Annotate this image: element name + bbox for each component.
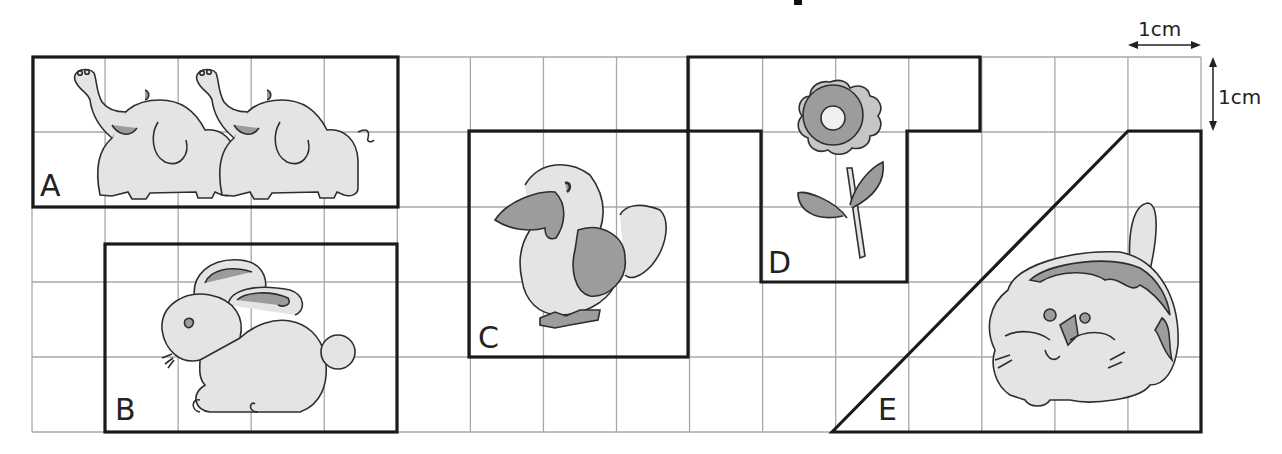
tiger-cub-illustration <box>989 203 1178 406</box>
scale-indicator-horizontal: 1cm <box>1128 17 1201 49</box>
scale-label-horizontal: 1cm <box>1138 17 1181 41</box>
area-grid-diagram: 1cm 1cm A <box>0 0 1282 454</box>
bird-illustration <box>495 165 666 328</box>
shape-c: C <box>478 165 666 355</box>
rabbit-illustration <box>162 260 355 412</box>
shape-label-b: B <box>115 392 136 427</box>
shape-e: E <box>878 203 1178 427</box>
shape-label-e: E <box>878 392 897 427</box>
shape-label-c: C <box>478 320 499 355</box>
shape-label-a: A <box>40 168 61 203</box>
elephant-illustration <box>75 69 374 199</box>
shape-d: D <box>768 80 883 280</box>
flower-illustration <box>798 80 883 258</box>
shape-b: B <box>115 260 355 427</box>
scale-label-vertical: 1cm <box>1218 85 1261 109</box>
scale-indicator-vertical: 1cm <box>1209 57 1261 131</box>
shape-label-d: D <box>768 245 791 280</box>
